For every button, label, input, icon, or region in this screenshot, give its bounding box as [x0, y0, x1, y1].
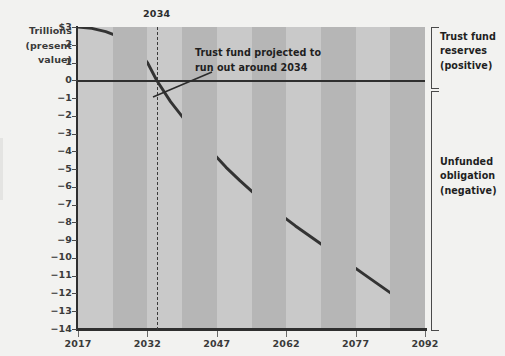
- x-axis-tick-mark: [217, 331, 218, 337]
- x-axis-tick-label: 2062: [263, 338, 309, 349]
- x-axis-tick-label: 2092: [402, 338, 448, 349]
- y-axis-tick-mark: [72, 116, 77, 117]
- y-axis-tick-label: −4: [44, 145, 72, 156]
- side-label-unfunded-line-2: obligation: [440, 169, 504, 183]
- side-label-trust-fund-reserves: Trust fund reserves (positive): [440, 30, 504, 73]
- y-axis-tick-mark: [72, 151, 77, 152]
- annotation-line-1: Trust fund projected to: [195, 46, 321, 61]
- y-axis-tick-label: −14: [44, 323, 72, 334]
- bracket-unfunded-obligation: [431, 91, 439, 331]
- annotation-line-2: run out around 2034: [195, 61, 321, 76]
- y-axis-tick-mark: [72, 205, 77, 206]
- y-axis-tick-label: $3: [44, 21, 72, 32]
- side-label-unfunded-line-3: (negative): [440, 184, 504, 198]
- background-band: [390, 27, 425, 329]
- y-axis-tick-label: −12: [44, 287, 72, 298]
- y-axis-tick-mark: [72, 293, 77, 294]
- y-axis-tick-mark: [72, 169, 77, 170]
- y-axis-tick-mark: [72, 98, 77, 99]
- y-axis-tick-mark: [72, 80, 77, 81]
- side-label-reserves-line-3: (positive): [440, 59, 504, 73]
- x-axis-tick-mark: [286, 331, 287, 337]
- x-axis-tick-label: 2077: [333, 338, 379, 349]
- annotation-trust-fund-runout: Trust fund projected to run out around 2…: [195, 46, 321, 75]
- side-label-reserves-line-1: Trust fund: [440, 30, 504, 44]
- y-axis-tick-label: 1: [44, 56, 72, 67]
- y-axis-tick-label: −6: [44, 180, 72, 191]
- y-axis-tick-label: −8: [44, 216, 72, 227]
- x-axis-tick-mark: [78, 331, 79, 337]
- x-axis-line: [76, 328, 427, 331]
- y-axis-tick-label: −10: [44, 251, 72, 262]
- y-axis-tick-mark: [72, 27, 77, 28]
- y-axis-line: [76, 26, 78, 331]
- y-axis-tick-label: −11: [44, 269, 72, 280]
- y-axis-tick-mark: [72, 329, 77, 330]
- x-axis-tick-label: 2017: [55, 338, 101, 349]
- chart-figure: Trillions (present value) $3210−1−2−3−4−…: [0, 0, 505, 356]
- y-axis-tick-mark: [72, 222, 77, 223]
- background-band: [113, 27, 148, 329]
- zero-reference-line: [78, 80, 425, 82]
- y-axis-tick-mark: [72, 187, 77, 188]
- y-axis-tick-label: −2: [44, 109, 72, 120]
- scan-edge-artifact: [0, 138, 3, 200]
- year-2034-label: 2034: [127, 8, 187, 19]
- x-axis-tick-mark: [356, 331, 357, 337]
- y-axis-tick-mark: [72, 258, 77, 259]
- y-axis-tick-label: 0: [44, 74, 72, 85]
- side-label-reserves-line-2: reserves: [440, 44, 504, 58]
- y-axis-tick-label: 2: [44, 38, 72, 49]
- y-axis-tick-mark: [72, 45, 77, 46]
- x-axis-tick-label: 2032: [124, 338, 170, 349]
- y-axis-tick-mark: [72, 134, 77, 135]
- x-axis-tick-mark: [425, 331, 426, 337]
- y-axis-tick-label: −3: [44, 127, 72, 138]
- x-axis-tick-mark: [147, 331, 148, 337]
- y-axis-tick-label: −5: [44, 163, 72, 174]
- y-axis-tick-mark: [72, 63, 77, 64]
- bracket-trust-fund-reserves: [431, 27, 439, 89]
- x-axis-tick-label: 2047: [194, 338, 240, 349]
- background-band: [321, 27, 356, 329]
- y-axis-tick-mark: [72, 240, 77, 241]
- side-label-unfunded-obligation: Unfunded obligation (negative): [440, 155, 504, 198]
- y-axis-tick-label: −1: [44, 92, 72, 103]
- y-axis-tick-mark: [72, 311, 77, 312]
- y-axis-tick-mark: [72, 276, 77, 277]
- y-axis-tick-label: −13: [44, 305, 72, 316]
- y-axis-tick-label: −9: [44, 234, 72, 245]
- side-label-unfunded-line-1: Unfunded: [440, 155, 504, 169]
- y-axis-tick-label: −7: [44, 198, 72, 209]
